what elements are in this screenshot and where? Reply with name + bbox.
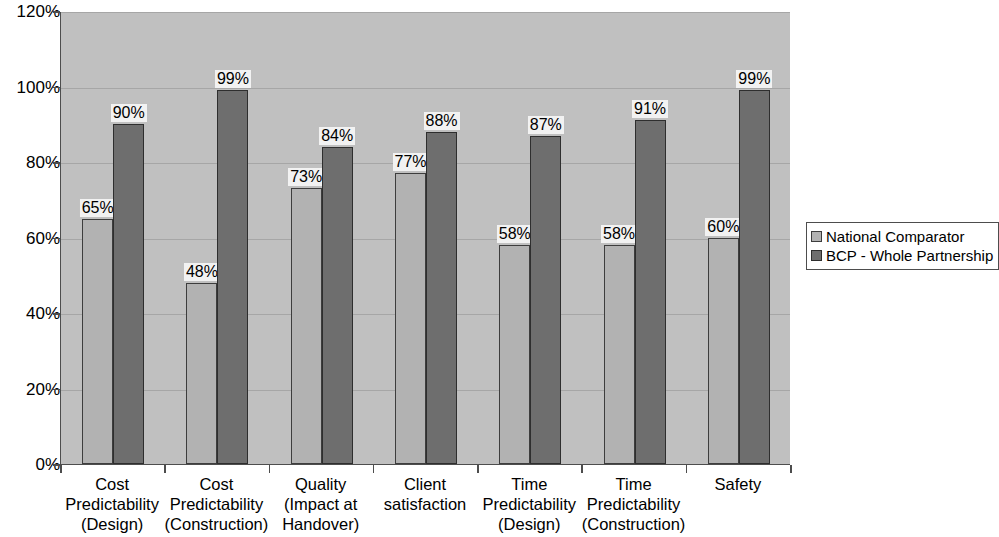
legend-item-national-comparator: National Comparator (811, 227, 993, 246)
bar-value-label: 65% (80, 199, 116, 217)
bar: 99% (739, 90, 770, 464)
legend-label: National Comparator (826, 229, 964, 245)
bar-value-label: 99% (736, 70, 772, 88)
legend-swatch-icon (811, 231, 822, 242)
x-axis-tick-mark (581, 465, 583, 473)
y-axis-tick-mark (53, 313, 60, 315)
bar: 58% (604, 245, 635, 464)
chart-legend: National Comparator BCP - Whole Partners… (806, 222, 999, 270)
y-axis-tick-mark (53, 11, 60, 13)
bar: 60% (708, 238, 739, 465)
bar: 90% (113, 124, 144, 464)
y-axis-tick-mark (53, 162, 60, 164)
bar-value-label: 58% (601, 225, 637, 243)
x-axis-tick-mark (373, 465, 375, 473)
y-axis-tick-mark (53, 238, 60, 240)
bar-value-label: 58% (497, 225, 533, 243)
bar-group: 73%84% (291, 12, 353, 464)
bar: 58% (499, 245, 530, 464)
bar: 99% (217, 90, 248, 464)
x-axis-tick-mark (477, 465, 479, 473)
bar-value-label: 60% (705, 218, 741, 236)
bar: 48% (186, 283, 217, 464)
bar: 91% (635, 120, 666, 464)
y-axis-tick-mark (53, 464, 60, 466)
bar-group: 77%88% (395, 12, 457, 464)
legend-swatch-icon (811, 250, 822, 261)
bar-group: 58%87% (499, 12, 561, 464)
y-axis: 0%20%40%60%80%100%120% (0, 0, 60, 537)
x-axis-category-label: Safety (686, 474, 790, 494)
x-axis-category-label: Quality (Impact at Handover) (269, 474, 373, 534)
bar-group: 58%91% (604, 12, 666, 464)
legend-label: BCP - Whole Partnership (826, 248, 993, 264)
plot-area: 65%90%48%99%73%84%77%88%58%87%58%91%60%9… (60, 12, 790, 465)
bar: 73% (291, 188, 322, 464)
x-axis-category-label: Time Predictability (Construction) (581, 474, 685, 534)
bar: 87% (530, 136, 561, 464)
bar-value-label: 88% (423, 112, 459, 130)
bar-value-label: 77% (392, 153, 428, 171)
bar-value-label: 84% (319, 127, 355, 145)
bar-value-label: 73% (288, 168, 324, 186)
bar-value-label: 48% (184, 263, 220, 281)
bar-value-label: 91% (632, 100, 668, 118)
y-axis-tick-mark (53, 389, 60, 391)
bar-value-label: 99% (215, 70, 251, 88)
legend-item-bcp-whole-partnership: BCP - Whole Partnership (811, 246, 993, 265)
x-axis-tick-mark (269, 465, 271, 473)
x-axis-tick-mark (164, 465, 166, 473)
bar: 88% (426, 132, 457, 464)
x-axis-category-label: Time Predictability (Design) (477, 474, 581, 534)
y-axis-tick-mark (53, 87, 60, 89)
x-axis-category-label: Client satisfaction (373, 474, 477, 514)
x-axis-tick-mark (60, 465, 62, 473)
x-axis-tick-mark (790, 465, 792, 473)
x-axis-tick-mark (686, 465, 688, 473)
bar-group: 60%99% (708, 12, 770, 464)
bar: 77% (395, 173, 426, 464)
bar-group: 48%99% (186, 12, 248, 464)
bar-group: 65%90% (82, 12, 144, 464)
bar: 65% (82, 219, 113, 464)
bar-value-label: 87% (528, 116, 564, 134)
x-axis-category-label: Cost Predictability (Design) (60, 474, 164, 534)
bar-value-label: 90% (111, 104, 147, 122)
x-axis-category-label: Cost Predictability (Construction) (164, 474, 268, 534)
bar: 84% (322, 147, 353, 464)
